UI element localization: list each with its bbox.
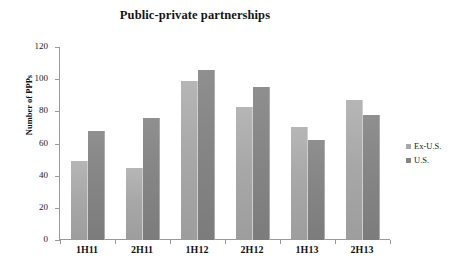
bar-group: 2H12 [236, 47, 269, 240]
legend-item[interactable]: Ex-U.S. [406, 139, 459, 153]
y-axis-tick-label: 120 [35, 41, 49, 51]
y-axis-tick: 80 [55, 111, 60, 112]
x-axis-category-label: 2H11 [115, 244, 169, 255]
bar [236, 107, 253, 240]
y-axis-tick-label: 40 [39, 170, 48, 180]
y-axis-tick-label: 60 [39, 138, 48, 148]
y-axis-tick: 40 [55, 176, 60, 177]
bar-group: 2H13 [346, 47, 379, 240]
legend-label: Ex-U.S. [414, 141, 441, 151]
x-axis-category-label: 1H11 [60, 244, 114, 255]
bar [253, 87, 270, 240]
bar-group: 1H13 [291, 47, 324, 240]
x-axis-category-label: 1H12 [170, 244, 224, 255]
legend-swatch-icon [406, 144, 411, 149]
bar [346, 100, 363, 240]
x-axis-category-label: 2H13 [335, 244, 389, 255]
bar [71, 161, 88, 240]
bar-group: 1H11 [71, 47, 104, 240]
y-axis-tick: 120 [55, 47, 60, 48]
legend-item[interactable]: U.S. [406, 153, 459, 167]
legend-swatch-icon [406, 158, 411, 163]
y-axis-tick-label: 80 [39, 105, 48, 115]
y-axis-tick: 100 [55, 79, 60, 80]
chart-legend: Ex-U.S.U.S. [406, 139, 459, 167]
y-axis-title: Number of PPPs [24, 60, 34, 150]
x-axis-separator [390, 240, 391, 244]
y-axis-tick-label: 20 [39, 202, 48, 212]
y-axis-tick-label: 100 [35, 73, 49, 83]
chart-container: Public-private partnerships Number of PP… [0, 0, 459, 274]
bar [363, 115, 380, 240]
x-axis-category-label: 2H12 [225, 244, 279, 255]
bar [181, 81, 198, 240]
chart-title: Public-private partnerships [0, 8, 390, 23]
bar [143, 118, 160, 240]
y-axis-tick: 20 [55, 208, 60, 209]
y-axis-tick: 60 [55, 144, 60, 145]
plot-area: 120100806040200 1H112H111H122H121H132H13 [60, 47, 390, 240]
bar [291, 127, 308, 240]
bar [198, 70, 215, 240]
bar [88, 131, 105, 240]
bar [126, 168, 143, 240]
x-axis-category-label: 1H13 [280, 244, 334, 255]
bar-group: 1H12 [181, 47, 214, 240]
y-axis-tick-label: 0 [44, 234, 49, 244]
bar-group: 2H11 [126, 47, 159, 240]
legend-label: U.S. [414, 155, 429, 165]
bar [308, 140, 325, 240]
